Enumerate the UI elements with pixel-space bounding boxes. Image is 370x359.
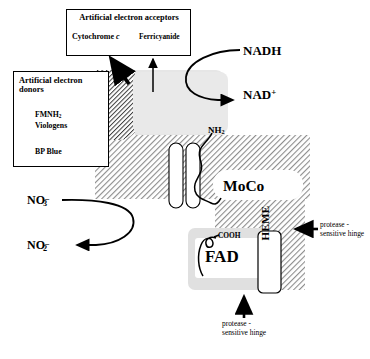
viologens-label: Viologens (35, 122, 67, 130)
cytochrome-c-name: Cytochrome (72, 32, 114, 41)
nad-plus-superscript: + (271, 87, 276, 97)
protease-sensitive-hinge-bottom-label: protease - sensitive hinge (222, 320, 268, 337)
fad-domain-label: FAD (205, 248, 239, 266)
nitrite-subscript: 2 (43, 244, 47, 253)
fmnh2-subscript: 2 (59, 113, 62, 119)
protease-sensitive-hinge-right-label: protease - sensitive hinge (320, 221, 366, 238)
cooh-terminus-label: COOH (218, 232, 241, 240)
nadh-label: NADH (243, 44, 281, 58)
bp-blue-label: BP Blue (35, 148, 62, 156)
nad-plus-label: NAD+ (243, 88, 276, 102)
cytochrome-c-label: Cytochrome c (72, 33, 120, 42)
moco-domain-label: MoCo (223, 178, 264, 195)
nh2-base: NH (208, 125, 222, 135)
heme-domain-label: HEME (258, 195, 272, 251)
nh2-terminus-label: NH2 (208, 126, 225, 136)
nitrate-reductase-figure: Artificial electron acceptors Cytochrome… (0, 0, 370, 359)
nh2-subscript: 2 (222, 129, 225, 135)
cytochrome-c-italic: c (116, 32, 120, 41)
ferricyanide-label: Ferricyanide (139, 33, 180, 41)
no3-to-no2-arrow (62, 200, 134, 245)
nad-plus-base: NAD (243, 87, 271, 102)
fmnh2-base: FMNH (35, 110, 59, 119)
nitrite-label: NO–2 (27, 239, 47, 254)
fmnh2-label: FMNH2 (35, 111, 61, 120)
acceptors-box-title: Artificial electron acceptors (72, 13, 186, 22)
nitrate-subscript: 3 (43, 199, 47, 208)
donors-box-title: Artificial electron donors (19, 76, 101, 94)
nitrate-label: NO–3 (27, 194, 47, 209)
